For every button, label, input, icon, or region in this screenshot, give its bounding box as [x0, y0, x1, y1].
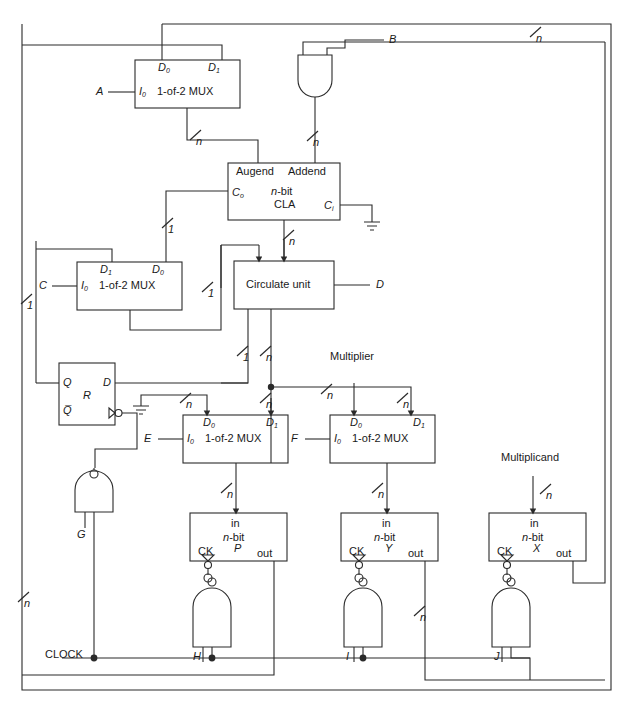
- signal-j-label: J: [494, 651, 500, 662]
- mux-a-port-d1: D1: [208, 62, 220, 73]
- reg-x-in-label: in: [530, 518, 539, 529]
- bus-width-tag: n: [186, 399, 192, 410]
- bus-width-tag: n: [266, 399, 272, 410]
- bus-width-tag: n: [289, 236, 295, 247]
- reg-p-in-label: in: [231, 518, 240, 529]
- bus-width-tag: 1: [168, 224, 174, 235]
- mux-f-port-d1: D1: [413, 417, 425, 428]
- signal-f-label: F: [291, 433, 298, 444]
- mux-c-port-d0: D0: [152, 264, 164, 275]
- bus-width-tag: n: [266, 352, 272, 363]
- bus-width-tag: n: [227, 489, 233, 500]
- bus-width-tag: n: [378, 489, 384, 500]
- mux-f-label: 1-of-2 MUX: [352, 433, 408, 444]
- cla-line1: nn-bit-bit: [271, 186, 292, 197]
- signal-d-label: D: [376, 279, 384, 290]
- nand-gate-j: [492, 578, 530, 680]
- mux-a-port-d0: D0: [158, 62, 170, 73]
- bus-width-tag: 1: [27, 300, 33, 311]
- clock-bus: [62, 655, 530, 662]
- reg-y-in-label: in: [382, 518, 391, 529]
- cla-line2: CLA: [274, 199, 295, 210]
- cla-port-co: Co: [232, 187, 244, 198]
- mux-a-port-i0: I0: [139, 86, 146, 97]
- bus-width-tag: n: [403, 399, 409, 410]
- bus-width-tag: 1: [243, 352, 249, 363]
- signal-e-label: E: [144, 433, 151, 444]
- reg-p-line2: P: [234, 543, 241, 554]
- wire-reg-x: [501, 42, 605, 583]
- reg-p-ck-label: CK: [198, 546, 213, 557]
- signal-h-label: H: [193, 651, 201, 662]
- mux-e-port-d0: D0: [203, 417, 215, 428]
- bus-width-tag: n: [327, 390, 333, 401]
- bus-width-tag: n: [196, 136, 202, 147]
- mux-e-label: 1-of-2 MUX: [205, 433, 261, 444]
- multiplicand-label: Multiplicand: [501, 452, 559, 463]
- signal-i-label: I: [346, 651, 349, 662]
- wire-reg-y: [353, 555, 605, 680]
- and-gate-b: [298, 40, 605, 163]
- mux-c-label: 1-of-2 MUX: [99, 280, 155, 291]
- mux-a-label: 1-of-2 MUX: [157, 86, 213, 97]
- mux-e-port-i0: I0: [187, 433, 194, 444]
- cla-port-ci: Ci: [324, 200, 334, 211]
- circulate-unit-label: Circulate unit: [246, 279, 310, 290]
- ff-r-port-q: Q: [63, 377, 72, 388]
- reg-x-ck-label: CK: [497, 546, 512, 557]
- cla-addend-label: Addend: [288, 166, 326, 177]
- reg-y-out-label: out: [408, 548, 423, 559]
- signal-c-label: C: [39, 280, 47, 291]
- bus-width-tag: n: [546, 490, 552, 501]
- bus-width-tag: n: [536, 33, 542, 44]
- ff-r-port-d: D: [103, 377, 111, 388]
- mux-c-port-i0: I0: [81, 280, 88, 291]
- reg-p-out-label: out: [257, 548, 272, 559]
- reg-x-out-label: out: [556, 548, 571, 559]
- mux-f-port-i0: I0: [334, 433, 341, 444]
- bus-slashes: [18, 27, 551, 616]
- nand-gate-i: [344, 578, 382, 662]
- reg-y-line2: Y: [385, 543, 392, 554]
- signal-g-label: G: [77, 529, 86, 540]
- bus-width-tag: n: [420, 612, 426, 623]
- reg-x-line2: X: [533, 543, 540, 554]
- mux-f-port-d0: D0: [350, 417, 362, 428]
- nand-gate-g: [75, 468, 113, 658]
- wire-mux-f: [305, 383, 387, 513]
- diagram-svg: [0, 0, 633, 713]
- bus-width-tag: n: [24, 598, 30, 609]
- cla-augend-label: Augend: [236, 166, 274, 177]
- signal-b-label: B: [389, 34, 396, 45]
- outer-frame: [22, 24, 611, 690]
- mux-c-port-d1: D1: [100, 264, 112, 275]
- bus-width-tag: n: [313, 137, 319, 148]
- bus-width-tag: 1: [208, 288, 214, 299]
- multiplier-label: Multiplier: [330, 351, 374, 362]
- ff-r-port-qbar: Q̅: [63, 405, 72, 416]
- wire-cla: [166, 191, 380, 261]
- block-outlines: [59, 60, 586, 561]
- reg-y-ck-label: CK: [349, 546, 364, 557]
- clock-label: CLOCK: [45, 649, 83, 660]
- signal-a-label: A: [96, 86, 103, 97]
- diagram-canvas: D0 D1 I0 1-of-2 MUX A B Augend Addend Co…: [0, 0, 633, 713]
- mux-e-port-d1: D1: [266, 417, 278, 428]
- ff-r-label: R: [83, 390, 91, 401]
